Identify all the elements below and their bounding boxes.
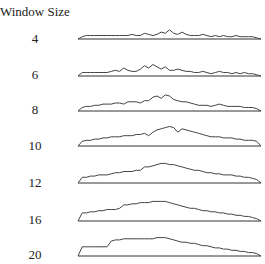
sparkline-window-4 [78, 30, 261, 39]
sparkline-window-16 [78, 201, 261, 221]
sparkline-window-12 [78, 163, 261, 183]
sparkline-window-6 [78, 65, 261, 77]
sparkline-window-10 [78, 127, 261, 147]
series-line [78, 127, 261, 147]
series-line [78, 163, 261, 183]
series-line [78, 238, 261, 256]
series-line [78, 65, 261, 77]
series-line [78, 30, 261, 39]
sparkline-window-8 [78, 95, 261, 111]
series-line [78, 95, 261, 111]
sparkline-plots [0, 0, 265, 264]
series-line [78, 201, 261, 221]
sparkline-window-20 [78, 238, 261, 256]
